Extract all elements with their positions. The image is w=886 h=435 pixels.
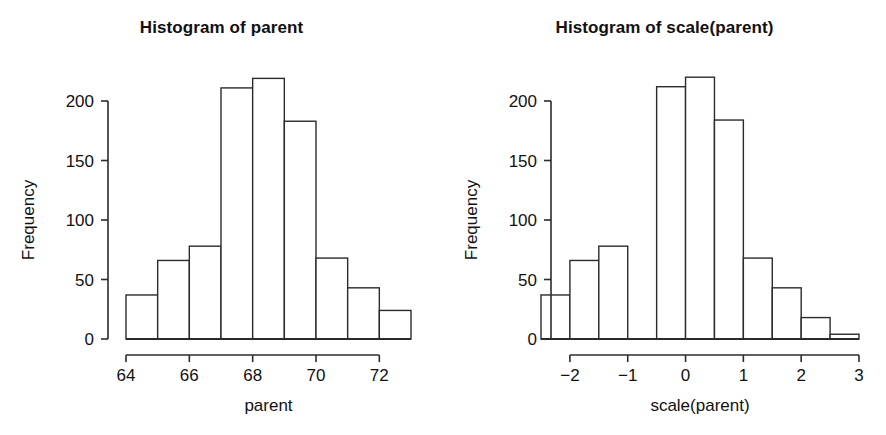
x-tick-label: 68 [243,366,262,385]
x-tick-label: 70 [307,366,326,385]
y-tick-label: 150 [66,152,94,171]
histogram-bar [599,246,628,339]
panel-histogram-parent: Histogram of parent 050100150200 6466687… [0,0,443,435]
x-tick-label: −1 [618,366,637,385]
histogram-bar [570,260,599,339]
histogram-figure: Histogram of parent 050100150200 6466687… [0,0,886,435]
y-tick-label: 100 [509,211,537,230]
histogram-bar [316,258,348,339]
y-tick-label: 0 [85,330,94,349]
y-tick-label: 100 [66,211,94,230]
x-tick-label: 72 [370,366,389,385]
x-axis-title: parent [244,396,292,415]
y-tick-label: 150 [509,152,537,171]
histogram-bar [657,87,686,339]
y-tick-label: 200 [66,92,94,111]
bars-group-right [541,77,859,339]
histogram-bar [221,88,253,339]
histogram-bar [189,246,221,339]
histogram-bar [801,318,830,339]
y-axis-title: Frequency [462,179,481,260]
x-tick-label: −2 [560,366,579,385]
x-tick-label: 2 [796,366,805,385]
bars-group-left [126,78,411,339]
histogram-bar [348,288,380,339]
plot-area-right: 050100150200 −2−10123 scale(parent)Frequ… [443,0,886,435]
x-tick-label: 0 [681,366,690,385]
x-axis-right: −2−10123 [560,355,864,385]
histogram-bar [541,295,570,339]
x-axis-title: scale(parent) [650,396,749,415]
y-tick-label: 50 [75,271,94,290]
histogram-bar [714,120,743,339]
y-axis-title: Frequency [19,179,38,260]
x-tick-label: 1 [739,366,748,385]
panel-histogram-scale-parent: Histogram of scale(parent) 050100150200 … [443,0,886,435]
y-tick-label: 200 [509,92,537,111]
x-tick-label: 64 [117,366,136,385]
histogram-bar [772,288,801,339]
histogram-bar [379,310,411,339]
histogram-bar [284,121,316,339]
y-tick-label: 50 [518,271,537,290]
y-tick-label: 0 [528,330,537,349]
x-axis-left: 6466687072 [117,355,389,385]
histogram-bar [126,295,158,339]
histogram-bar [253,78,285,339]
plot-area-left: 050100150200 6466687072 parentFrequency [0,0,443,435]
histogram-bar [686,77,715,339]
histogram-bar [743,258,772,339]
histogram-bar [158,260,190,339]
x-tick-label: 66 [180,366,199,385]
x-tick-label: 3 [854,366,863,385]
y-axis-left: 050100150200 [66,92,108,349]
